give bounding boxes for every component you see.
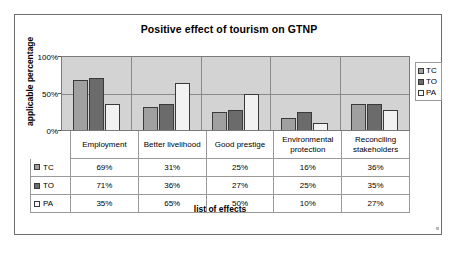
bar-tc[interactable] (351, 104, 366, 130)
table-row: TC 69% 31% 25% 16% 36% (31, 159, 410, 177)
table-cell: 36% (342, 159, 410, 177)
table-header-row: Employment Better livelihood Good presti… (31, 131, 410, 159)
bar-tc[interactable] (143, 107, 158, 130)
bar-to[interactable] (297, 112, 312, 130)
category-label-good-prestige: Good prestige (206, 131, 274, 159)
bar-group-better-livelihood (131, 57, 200, 130)
bar-tc[interactable] (212, 112, 227, 130)
bar-tc[interactable] (73, 80, 88, 130)
legend-label: TC (426, 67, 437, 75)
category-label-environmental-protection: Environmental protection (274, 131, 342, 159)
series-name: TC (43, 163, 54, 172)
chart-frame: Positive effect of tourism on GTNP appli… (14, 14, 442, 235)
category-label-reconciling-stakeholders: Reconciling stakeholders (342, 131, 410, 159)
data-table: Employment Better livelihood Good presti… (30, 131, 410, 213)
series-swatch-icon (34, 164, 40, 170)
chart-legend: TC TO PA (415, 62, 442, 101)
bars-layer (62, 57, 409, 130)
bar-pa[interactable] (383, 110, 398, 130)
table-cell: 36% (138, 177, 206, 195)
table-cell: 69% (71, 159, 139, 177)
table-series-header-to: TO (31, 177, 71, 195)
plot-area (61, 56, 410, 131)
table-corner-cell (31, 131, 71, 159)
bar-group-environmental-protection (270, 57, 339, 130)
legend-item-pa[interactable]: PA (418, 87, 439, 98)
bar-tc[interactable] (281, 118, 296, 130)
bar-pa[interactable] (313, 123, 328, 130)
table-cell: 25% (206, 159, 274, 177)
x-axis-title: list of effects (30, 204, 410, 214)
legend-swatch-icon (418, 68, 424, 74)
y-axis-tick-label: 50% (30, 91, 58, 99)
y-axis-tick-50: 50% (30, 91, 58, 99)
series-name: TO (43, 181, 54, 190)
stray-mark (436, 227, 439, 230)
y-axis-title: applicable percentage (25, 38, 35, 126)
chart-title: Positive effect of tourism on GTNP (15, 23, 443, 35)
category-label-better-livelihood: Better livelihood (138, 131, 206, 159)
table-cell: 71% (71, 177, 139, 195)
bar-to[interactable] (159, 104, 174, 130)
legend-item-tc[interactable]: TC (418, 65, 439, 76)
bar-pa[interactable] (244, 94, 259, 131)
table-series-header-tc: TC (31, 159, 71, 177)
y-axis-tick-100: 100% (30, 54, 58, 62)
legend-swatch-icon (418, 90, 424, 96)
category-label-employment: Employment (71, 131, 139, 159)
bar-to[interactable] (367, 104, 382, 130)
legend-label: TO (426, 78, 437, 86)
bar-group-employment (62, 57, 131, 130)
table-row: TO 71% 36% 27% 25% 35% (31, 177, 410, 195)
bar-pa[interactable] (175, 83, 190, 130)
table-cell: 35% (342, 177, 410, 195)
bar-group-good-prestige (201, 57, 270, 130)
bar-to[interactable] (89, 78, 104, 130)
table-cell: 16% (274, 159, 342, 177)
series-swatch-icon (34, 183, 40, 189)
legend-swatch-icon (418, 79, 424, 85)
legend-item-to[interactable]: TO (418, 76, 439, 87)
bar-pa[interactable] (105, 104, 120, 130)
table-cell: 27% (206, 177, 274, 195)
y-axis-tick-label: 100% (30, 54, 58, 62)
table-cell: 25% (274, 177, 342, 195)
table-cell: 31% (138, 159, 206, 177)
bar-to[interactable] (228, 110, 243, 130)
legend-label: PA (426, 89, 436, 97)
bar-group-reconciling-stakeholders (340, 57, 409, 130)
